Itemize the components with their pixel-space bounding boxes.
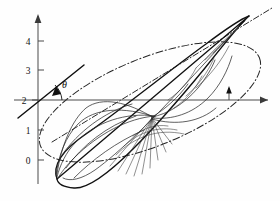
fan-spoke-1 — [118, 118, 152, 171]
x-axis-marker-group — [226, 86, 232, 100]
fan-spoke-2 — [126, 118, 152, 174]
tick-label-0: 0 — [26, 156, 31, 166]
x-axis-marker-arrowhead — [226, 86, 232, 94]
theta-label: θ — [62, 79, 67, 90]
tick-label-1: 1 — [26, 126, 31, 136]
tick-label-group: 4 3 2 1 0 — [22, 37, 31, 166]
tick-label-4: 4 — [26, 37, 31, 47]
tick-label-3: 3 — [26, 66, 31, 76]
dashdot-ray-group — [52, 8, 272, 142]
fan-spoke-7 — [152, 118, 166, 152]
tick-label-2: 2 — [22, 96, 27, 106]
horizontal-axis-arrowhead — [260, 97, 268, 104]
plot-svg: 4 3 2 1 0 — [0, 0, 280, 201]
fan-spoke-5 — [150, 118, 152, 168]
axes-group — [14, 14, 268, 184]
vertical-axis-arrowhead — [35, 14, 42, 23]
spiral-arc-2 — [152, 60, 215, 117]
figure-container: 4 3 2 1 0 — [0, 0, 280, 201]
fan-chord-2 — [57, 115, 155, 177]
spiral-arc-4 — [152, 108, 216, 122]
fan-spoke-9 — [110, 118, 152, 166]
dashdot-ray — [52, 8, 272, 142]
